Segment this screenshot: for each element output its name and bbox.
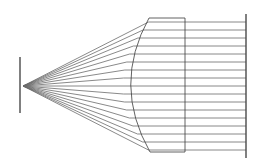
diagram-background bbox=[0, 0, 266, 168]
optics-diagram-svg bbox=[0, 0, 266, 168]
ray-diagram-canvas bbox=[0, 0, 266, 168]
